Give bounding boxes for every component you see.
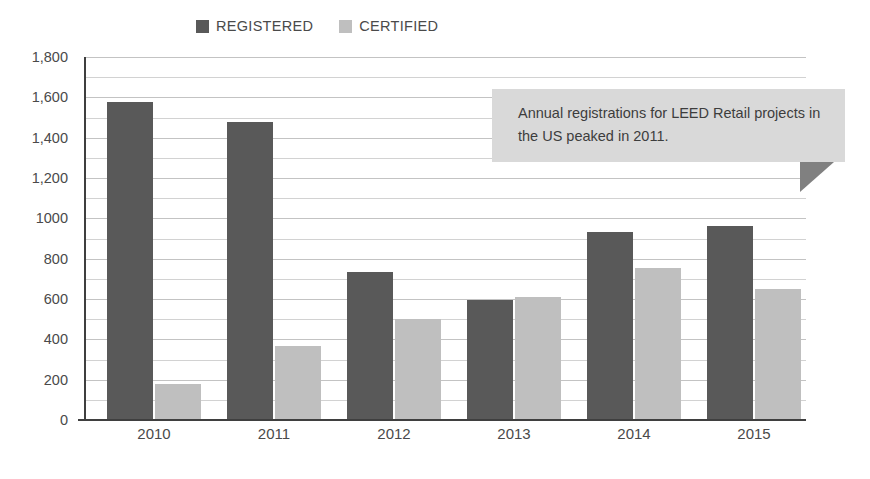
annotation-callout: Annual registrations for LEED Retail pro… — [492, 89, 845, 162]
x-axis-tick-label-2012: 2012 — [377, 425, 410, 442]
bar-certified-2012 — [395, 319, 441, 420]
x-axis-line — [84, 419, 806, 421]
x-axis-origin-tick — [78, 419, 85, 421]
y-axis-tick-label: 400 — [44, 331, 68, 347]
y-axis-tick-label: 1,400 — [32, 130, 68, 146]
y-axis-tick-label: 0 — [60, 412, 68, 428]
bar-registered-2013 — [467, 300, 513, 420]
bar-registered-2014 — [587, 232, 633, 420]
chart-container: REGISTERED CERTIFIED 020040060080010001,… — [0, 0, 870, 479]
bar-registered-2011 — [227, 122, 273, 420]
x-axis-labels: 201020112012201320142015 — [84, 425, 806, 455]
annotation-callout-text: Annual registrations for LEED Retail pro… — [518, 102, 830, 148]
legend-swatch-registered — [196, 20, 209, 33]
y-axis-tick-label: 200 — [44, 372, 68, 388]
y-axis-tick-label: 1,600 — [32, 89, 68, 105]
bar-group-2011 — [227, 57, 321, 420]
bar-certified-2011 — [275, 346, 321, 420]
x-axis-tick-label-2011: 2011 — [258, 425, 290, 442]
x-axis-tick-label-2015: 2015 — [737, 425, 770, 442]
y-axis-tick-label: 1,800 — [32, 49, 68, 65]
x-axis-tick-label-2014: 2014 — [617, 425, 650, 442]
bar-certified-2015 — [755, 289, 801, 420]
legend-swatch-certified — [339, 20, 352, 33]
y-axis-tick-label: 1000 — [36, 210, 68, 226]
bar-group-2012 — [347, 57, 441, 420]
bar-registered-2010 — [107, 102, 153, 420]
x-axis-tick-label-2010: 2010 — [137, 425, 170, 442]
legend-item-registered: REGISTERED — [196, 18, 313, 34]
chart-legend: REGISTERED CERTIFIED — [196, 18, 438, 34]
bar-certified-2014 — [635, 268, 681, 420]
y-axis-tick-label: 600 — [44, 291, 68, 307]
bar-registered-2012 — [347, 272, 393, 420]
x-axis-tick-label-2013: 2013 — [497, 425, 530, 442]
legend-item-certified: CERTIFIED — [339, 18, 438, 34]
annotation-callout-tail-icon — [800, 162, 834, 192]
legend-label-certified: CERTIFIED — [359, 18, 438, 34]
y-axis-tick-label: 800 — [44, 251, 68, 267]
y-axis-labels: 020040060080010001,2001,4001,6001,800 — [0, 57, 78, 420]
bar-group-2010 — [107, 57, 201, 420]
bar-certified-2013 — [515, 297, 561, 420]
y-axis-tick-label: 1,200 — [32, 170, 68, 186]
legend-label-registered: REGISTERED — [216, 18, 313, 34]
y-axis-line — [84, 57, 86, 420]
bar-registered-2015 — [707, 226, 753, 420]
bar-certified-2010 — [155, 384, 201, 420]
